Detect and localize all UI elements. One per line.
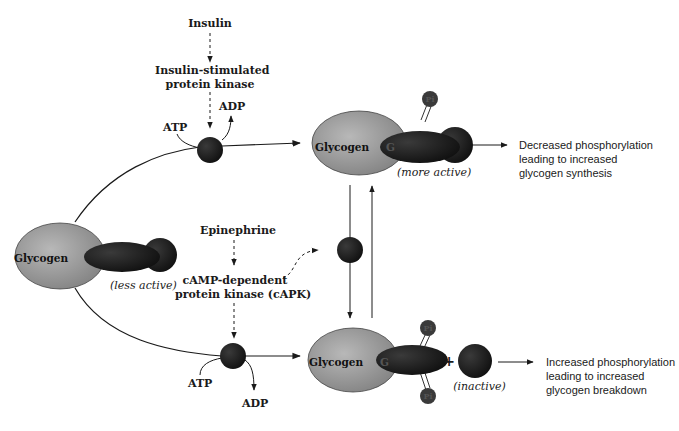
enzyme-body: [84, 242, 160, 272]
capk-label-line1: cAMP-dependent: [180, 274, 290, 288]
left-glycogen-label: Glycogen: [14, 252, 68, 264]
top-path-arrow: [222, 143, 300, 146]
top-atp-arrow: [177, 134, 200, 148]
enzyme-letter: G: [386, 141, 395, 153]
less-active-label: (less active): [110, 279, 170, 293]
top-outcome-line1: Decreased phosphorylation: [519, 138, 653, 152]
top-outcome-line3: glycogen synthesis: [519, 166, 612, 180]
phosphate-bottom-label: Pi: [423, 391, 432, 401]
bottom-outcome-line2: leading to increased: [546, 369, 644, 383]
top-glycogen-label: Glycogen: [315, 141, 369, 153]
bottom-glycogen-label: Glycogen: [309, 356, 363, 368]
top-right-complex: Pi Glycogen G: [312, 91, 473, 175]
more-active-label: (more active): [397, 166, 467, 180]
released-head-circle: [458, 344, 492, 378]
epinephrine-label: Epinephrine: [200, 224, 270, 238]
phosphatase-circle: [197, 137, 223, 163]
top-atp-label: ATP: [163, 121, 187, 135]
plus-sign: +: [443, 353, 455, 369]
phosphate-top-label: Pi: [423, 323, 432, 333]
insulin-label: Insulin: [185, 17, 235, 31]
insulin-kinase-label-line2: protein kinase: [155, 78, 265, 92]
bottom-adp-label: ADP: [242, 397, 268, 411]
kinase-circle: [220, 343, 246, 369]
bottom-outcome-line1: Increased phosphorylation: [546, 355, 675, 369]
enzyme-letter: G: [380, 356, 389, 368]
top-outcome-line2: leading to increased: [519, 152, 617, 166]
inhibitor-circle: [337, 237, 363, 263]
insulin-kinase-label-line1: Insulin-stimulated: [155, 64, 265, 78]
bottom-atp-label: ATP: [188, 377, 212, 391]
dephosphorylation-path: [75, 146, 216, 222]
bottom-atp-arrow: [200, 358, 222, 375]
top-adp-arrow: [222, 116, 231, 140]
top-adp-label: ADP: [219, 100, 245, 114]
bottom-adp-arrow: [245, 360, 254, 390]
bottom-outcome-line3: glycogen breakdown: [546, 383, 647, 397]
capk-label-line2: protein kinase (cAPK): [175, 288, 295, 302]
phosphate-label: Pi: [425, 94, 434, 104]
inactive-label: (inactive): [452, 380, 507, 394]
